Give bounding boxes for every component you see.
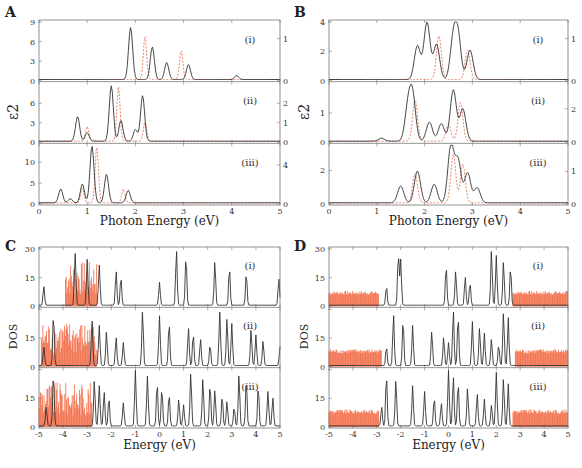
y-tick-label: 15 — [25, 274, 35, 283]
y-tick-label: 15 — [25, 394, 35, 403]
y-tick-label: 0 — [30, 302, 35, 311]
y-tick-label: 3 — [30, 119, 35, 128]
solid-series — [39, 147, 280, 203]
panel-d-ylabel: DOS — [298, 320, 311, 354]
panel-a-ylabel: ε2 — [5, 97, 21, 127]
right-y-tick-label: 0 — [283, 138, 288, 147]
subplot-label: (iii) — [529, 381, 546, 392]
y-tick-label: 6 — [30, 99, 35, 108]
subplot-3 — [329, 145, 568, 204]
subplot-label: (ii) — [243, 95, 257, 106]
panel-a-label: A — [5, 4, 16, 20]
panel-b-ylabel: ε2 — [296, 97, 312, 127]
subplot-label: (iii) — [529, 157, 546, 168]
subplot-2 — [329, 84, 568, 142]
subplot-3 — [39, 370, 280, 427]
y-tick-label: 15 — [315, 394, 325, 403]
y-tick-label: 0 — [30, 363, 35, 372]
y-tick-label: 0 — [320, 200, 325, 209]
panel-d-xlabel: Energy (eV) — [329, 438, 568, 452]
y-tick-label: 9 — [30, 18, 35, 27]
subplot-label: (iii) — [241, 381, 258, 392]
right-y-tick-label: 0 — [571, 77, 576, 86]
subplot-1 — [329, 249, 568, 306]
y-tick-label: 30 — [25, 245, 35, 254]
panel-d — [329, 247, 568, 428]
y-tick-label: 4 — [320, 18, 325, 27]
y-tick-label: 0 — [30, 138, 35, 147]
solid-series — [329, 84, 568, 141]
panel-c — [39, 247, 280, 428]
plot-frame — [39, 20, 280, 205]
y-tick-label: 0 — [320, 138, 325, 147]
right-y-tick-label: 1 — [571, 35, 576, 44]
y-tick-label: 10 — [25, 158, 35, 167]
y-tick-label: 5 — [30, 179, 35, 188]
subplot-1 — [329, 22, 568, 81]
plot-frame — [329, 247, 568, 428]
y-tick-label: 2 — [320, 47, 325, 56]
y-tick-label: 2 — [320, 166, 325, 175]
subplot-label: (iii) — [241, 157, 258, 168]
right-y-tick-label: 0 — [571, 138, 576, 147]
subplot-label: (i) — [532, 34, 543, 45]
panel-c-ylabel: DOS — [7, 320, 20, 354]
y-tick-label: 0 — [30, 200, 35, 209]
figure-canvas: 012345036901(i)036012(ii)051004(iii)0123… — [0, 0, 582, 468]
subplot-3 — [329, 370, 568, 427]
solid-series — [329, 22, 568, 80]
right-y-tick-label: 0 — [571, 200, 576, 209]
y-tick-label: 0 — [320, 423, 325, 432]
y-tick-label: 3 — [30, 57, 35, 66]
subplot-label: (i) — [244, 260, 255, 271]
panel-a-xlabel: Photon Energy (eV) — [39, 214, 280, 228]
right-y-tick-label: 0 — [283, 200, 288, 209]
panel-b-label: B — [294, 4, 306, 20]
right-y-tick-label: 2 — [283, 99, 288, 108]
subplot-1 — [39, 249, 280, 306]
y-tick-label: 6 — [30, 38, 35, 47]
y-tick-label: 15 — [315, 274, 325, 283]
panel-c-label: C — [5, 238, 16, 254]
y-tick-label: 0 — [30, 77, 35, 86]
y-tick-label: 0 — [320, 302, 325, 311]
panel-a — [39, 20, 280, 205]
right-y-tick-label: 1 — [283, 119, 288, 128]
panel-b — [329, 20, 568, 205]
right-y-tick-label: 1 — [283, 35, 288, 44]
subplot-label: (ii) — [531, 320, 545, 331]
y-tick-label: 0 — [320, 363, 325, 372]
y-tick-label: 15 — [315, 334, 325, 343]
subplot-3 — [39, 147, 280, 205]
subplot-label: (ii) — [243, 320, 257, 331]
subplot-label: (i) — [532, 260, 543, 271]
right-y-tick-label: 4 — [283, 161, 288, 170]
subplot-label: (ii) — [531, 95, 545, 106]
right-y-tick-label: 2 — [571, 105, 576, 114]
subplot-1 — [39, 22, 280, 81]
y-tick-label: 0 — [30, 423, 35, 432]
right-y-tick-label: 0 — [283, 77, 288, 86]
right-y-tick-label: 1 — [571, 167, 576, 176]
y-tick-label: 1 — [320, 109, 325, 118]
y-tick-label: 0 — [320, 77, 325, 86]
panel-b-xlabel: Photon Energy (eV) — [329, 214, 568, 228]
panel-d-label: D — [294, 238, 306, 254]
subplot-label: (i) — [244, 34, 255, 45]
panel-c-xlabel: Energy (eV) — [39, 438, 280, 452]
y-tick-label: 30 — [315, 245, 325, 254]
subplot-2 — [39, 309, 280, 366]
solid-series — [39, 86, 280, 141]
y-tick-label: 15 — [25, 334, 35, 343]
plot-frame — [329, 20, 568, 205]
subplot-2 — [329, 309, 568, 366]
